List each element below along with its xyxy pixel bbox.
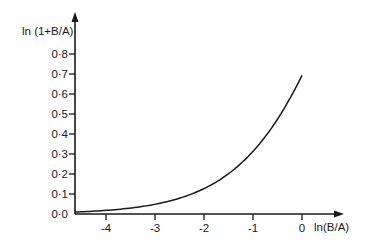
y-tick-label: 0·0 — [51, 208, 68, 220]
x-tick-label: -2 — [199, 222, 209, 234]
y-tick-label: 0·4 — [51, 128, 68, 140]
y-ticks: 0·00·10·20·30·40·50·60·70·8 — [51, 48, 75, 220]
x-tick-label: -4 — [101, 222, 112, 234]
x-axis-label: ln(B/A) — [314, 221, 349, 233]
y-tick-label: 0·2 — [51, 168, 68, 180]
x-ticks: -4-3-2-10 — [101, 214, 305, 234]
y-axis-arrow-icon — [72, 12, 79, 22]
y-tick-label: 0·1 — [51, 188, 68, 200]
y-tick-label: 0·6 — [51, 88, 68, 100]
y-tick-label: 0·8 — [51, 48, 68, 60]
y-tick-label: 0·3 — [51, 148, 68, 160]
y-tick-label: 0·5 — [51, 108, 68, 120]
x-tick-label: -1 — [248, 222, 258, 234]
x-tick-label: -3 — [150, 222, 160, 234]
y-axis-label: ln (1+B/A) — [22, 25, 74, 37]
y-tick-label: 0·7 — [51, 68, 68, 80]
x-tick-label: 0 — [299, 222, 305, 234]
x-axis-arrow-icon — [334, 211, 344, 218]
data-curve — [75, 75, 302, 212]
chart: 0·00·10·20·30·40·50·60·70·8 -4-3-2-10 ln… — [0, 0, 368, 245]
